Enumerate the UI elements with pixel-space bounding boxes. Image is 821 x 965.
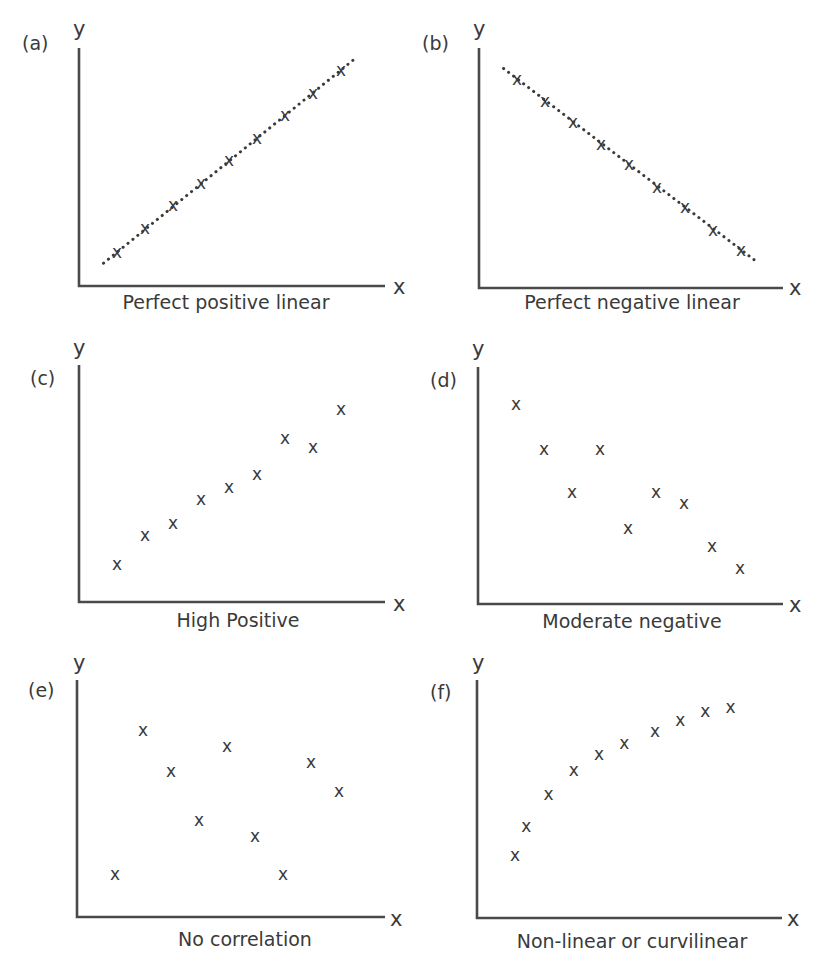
data-point-x-marker: x — [308, 83, 318, 103]
y-axis-label: y — [73, 336, 85, 360]
x-axis-label: x — [787, 907, 799, 931]
data-point-x-marker: x — [196, 489, 206, 509]
data-point-x-marker: x — [567, 482, 577, 502]
x-axis-label: x — [789, 276, 801, 300]
data-point-x-marker: x — [252, 128, 262, 148]
data-point-x-marker: x — [140, 218, 150, 238]
x-axis-label: x — [390, 907, 402, 931]
data-point-x-marker: x — [569, 760, 579, 780]
data-point-x-marker: x — [540, 91, 550, 111]
panel-caption: Non-linear or curvilinear — [517, 930, 748, 952]
data-point-x-marker: x — [306, 752, 316, 772]
data-point-x-marker: x — [280, 428, 290, 448]
y-axis-label: y — [473, 17, 485, 41]
data-point-x-marker: x — [110, 864, 120, 884]
panel-b: (b) y x Perfect negative linear xxxxxxxx… — [422, 17, 801, 313]
x-axis-label: x — [393, 592, 405, 616]
data-point-x-marker: x — [334, 781, 344, 801]
data-point-x-marker: x — [196, 173, 206, 193]
data-point-x-marker: x — [594, 744, 604, 764]
data-point-x-marker: x — [595, 439, 605, 459]
data-point-x-marker: x — [512, 69, 522, 89]
data-point-x-marker: x — [278, 864, 288, 884]
data-point-x-marker: x — [280, 105, 290, 125]
data-point-x-marker: x — [138, 720, 148, 740]
data-point-x-marker: x — [568, 112, 578, 132]
data-point-x-marker: x — [336, 60, 346, 80]
panel-f: (f) y x Non-linear or curvilinear xxxxxx… — [430, 651, 799, 952]
data-point-x-marker: x — [250, 826, 260, 846]
data-point-x-marker: x — [521, 816, 531, 836]
y-axis-label: y — [73, 17, 85, 41]
data-point-x-marker: x — [168, 513, 178, 533]
data-point-x-marker: x — [140, 525, 150, 545]
data-point-x-marker: x — [652, 177, 662, 197]
x-axis-label: x — [789, 593, 801, 617]
data-point-x-marker: x — [735, 558, 745, 578]
data-point-x-marker: x — [511, 394, 521, 414]
data-point-x-marker: x — [166, 761, 176, 781]
panel-e: (e) y x No correlation xxxxxxxxx — [28, 651, 402, 950]
data-point-x-marker: x — [708, 220, 718, 240]
data-point-x-marker: x — [651, 482, 661, 502]
data-point-x-marker: x — [623, 518, 633, 538]
data-point-x-marker: x — [675, 710, 685, 730]
data-point-x-marker: x — [624, 154, 634, 174]
data-point-x-marker: x — [112, 554, 122, 574]
data-point-x-marker: x — [252, 464, 262, 484]
data-point-x-marker: x — [736, 240, 746, 260]
data-point-x-marker: x — [680, 197, 690, 217]
panel-a: (a) y x Perfect positive linear xxxxxxxx… — [22, 17, 405, 313]
panel-caption: Perfect positive linear — [123, 291, 330, 313]
panel-label: (b) — [422, 32, 449, 54]
axes — [477, 680, 782, 918]
panel-caption: Moderate negative — [542, 610, 722, 632]
x-axis-label: x — [393, 275, 405, 299]
data-point-x-marker: x — [650, 721, 660, 741]
correlation-figure: (a) y x Perfect positive linear xxxxxxxx… — [0, 0, 821, 965]
y-axis-label: y — [472, 337, 484, 361]
data-point-x-marker: x — [222, 736, 232, 756]
panel-caption: High Positive — [177, 609, 300, 631]
data-point-x-marker: x — [308, 437, 318, 457]
data-point-x-marker: x — [194, 810, 204, 830]
panel-caption: No correlation — [178, 928, 312, 950]
data-point-x-marker: x — [700, 701, 710, 721]
data-point-x-marker: x — [168, 195, 178, 215]
data-point-x-marker: x — [539, 439, 549, 459]
data-point-x-marker: x — [224, 477, 234, 497]
data-point-x-marker: x — [112, 242, 122, 262]
data-point-x-marker: x — [336, 399, 346, 419]
data-point-x-marker: x — [510, 845, 520, 865]
data-point-x-marker: x — [544, 784, 554, 804]
y-axis-label: y — [472, 651, 484, 675]
panel-label: (a) — [22, 32, 48, 54]
panel-caption: Perfect negative linear — [524, 291, 740, 313]
data-point-x-marker: x — [707, 536, 717, 556]
y-axis-label: y — [73, 651, 85, 675]
panel-label: (c) — [30, 367, 55, 389]
panel-d: (d) y x Moderate negative xxxxxxxxx — [430, 337, 801, 632]
panel-c: (c) y x High Positive xxxxxxxxx — [30, 336, 405, 631]
panel-label: (e) — [28, 679, 55, 701]
data-point-x-marker: x — [619, 733, 629, 753]
data-point-x-marker: x — [596, 134, 606, 154]
data-point-x-marker: x — [726, 697, 736, 717]
data-point-x-marker: x — [679, 493, 689, 513]
panel-label: (f) — [430, 681, 452, 703]
panel-label: (d) — [430, 369, 457, 391]
data-point-x-marker: x — [224, 150, 234, 170]
